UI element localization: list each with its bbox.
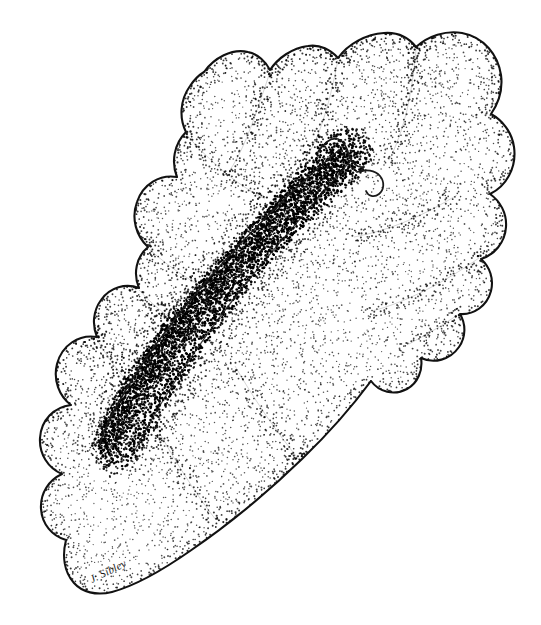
illustration-canvas: J. Sibley: [0, 0, 541, 625]
stipple-illustration-svg: J. Sibley: [0, 0, 541, 625]
